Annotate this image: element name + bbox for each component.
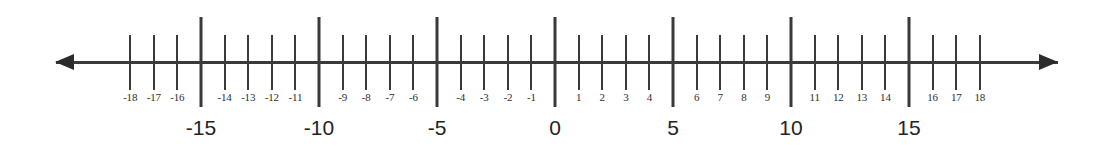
minor-tick-6 (696, 35, 698, 90)
minor-tick-4 (648, 35, 650, 90)
major-label-5: 5 (667, 115, 679, 141)
major-tick-15 (908, 17, 911, 107)
number-line-figure: -18-17-16-14-13-12-11-9-8-7-6-4-3-2-1123… (0, 0, 1113, 148)
minor-tick-neg7 (389, 35, 391, 90)
minor-label-neg13: -13 (241, 90, 255, 104)
major-label-10: 10 (779, 115, 802, 141)
minor-label-9: 9 (765, 90, 770, 104)
minor-label-neg4: -4 (456, 90, 465, 104)
minor-label-7: 7 (718, 90, 723, 104)
minor-label-18: 18 (974, 90, 985, 104)
major-label-15: 15 (897, 115, 920, 141)
minor-tick-neg4 (460, 35, 462, 90)
minor-label-neg3: -3 (480, 90, 489, 104)
right-arrow-icon (1039, 54, 1058, 70)
minor-tick-neg6 (412, 35, 414, 90)
minor-label-14: 14 (880, 90, 891, 104)
minor-label-6: 6 (694, 90, 699, 104)
minor-tick-neg1 (530, 35, 532, 90)
minor-tick-2 (601, 35, 603, 90)
minor-label-8: 8 (741, 90, 746, 104)
minor-label-neg6: -6 (409, 90, 418, 104)
minor-label-17: 17 (951, 90, 962, 104)
minor-tick-neg2 (507, 35, 509, 90)
minor-label-neg2: -2 (503, 90, 512, 104)
minor-label-3: 3 (623, 90, 628, 104)
minor-label-13: 13 (856, 90, 867, 104)
major-label-neg5: -5 (428, 115, 447, 141)
minor-label-2: 2 (600, 90, 605, 104)
minor-label-neg17: -17 (147, 90, 161, 104)
minor-tick-neg14 (224, 35, 226, 90)
minor-tick-14 (884, 35, 886, 90)
minor-tick-neg16 (176, 35, 178, 90)
minor-label-neg11: -11 (289, 90, 303, 104)
major-label-0: 0 (549, 115, 561, 141)
minor-tick-neg3 (483, 35, 485, 90)
minor-tick-neg12 (271, 35, 273, 90)
minor-tick-12 (837, 35, 839, 90)
minor-label-12: 12 (833, 90, 844, 104)
minor-label-1: 1 (576, 90, 581, 104)
minor-label-11: 11 (809, 90, 819, 104)
minor-tick-18 (979, 35, 981, 90)
minor-label-16: 16 (927, 90, 938, 104)
minor-tick-neg11 (294, 35, 296, 90)
minor-tick-neg8 (365, 35, 367, 90)
minor-tick-7 (719, 35, 721, 90)
minor-label-neg12: -12 (265, 90, 279, 104)
minor-label-neg9: -9 (338, 90, 347, 104)
major-tick-0 (554, 17, 557, 107)
major-tick-neg15 (200, 17, 203, 107)
minor-label-neg7: -7 (385, 90, 394, 104)
minor-tick-1 (578, 35, 580, 90)
minor-tick-neg9 (342, 35, 344, 90)
minor-tick-8 (743, 35, 745, 90)
minor-label-neg16: -16 (170, 90, 184, 104)
minor-label-neg14: -14 (218, 90, 232, 104)
major-label-neg15: -15 (186, 115, 216, 141)
major-tick-neg5 (436, 17, 439, 107)
minor-label-neg8: -8 (362, 90, 371, 104)
major-tick-10 (790, 17, 793, 107)
minor-tick-neg13 (247, 35, 249, 90)
minor-tick-9 (766, 35, 768, 90)
minor-tick-3 (625, 35, 627, 90)
minor-tick-neg17 (153, 35, 155, 90)
major-tick-neg10 (318, 17, 321, 107)
minor-label-neg1: -1 (527, 90, 536, 104)
minor-tick-17 (955, 35, 957, 90)
minor-tick-neg18 (129, 35, 131, 90)
major-tick-5 (672, 17, 675, 107)
minor-tick-11 (814, 35, 816, 90)
minor-tick-16 (932, 35, 934, 90)
minor-label-neg18: -18 (123, 90, 137, 104)
left-arrow-icon (55, 54, 74, 70)
major-label-neg10: -10 (304, 115, 334, 141)
minor-label-4: 4 (647, 90, 652, 104)
minor-tick-13 (861, 35, 863, 90)
